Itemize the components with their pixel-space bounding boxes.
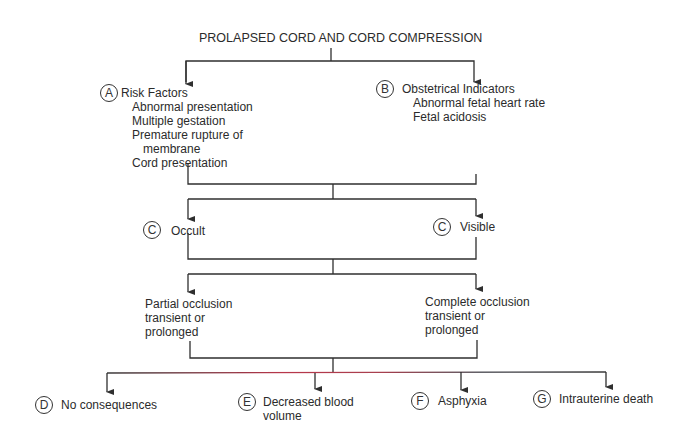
partial-occlusion-node: Partial occlusion transient or prolonged: [145, 297, 232, 339]
intrauterine-death-node: Intrauterine death: [559, 392, 653, 406]
complete-occlusion-node: Complete occlusion transient or prolonge…: [425, 295, 530, 337]
bottom-distribution-line: [107, 372, 606, 373]
risk-factor-item: Multiple gestation: [121, 114, 253, 128]
join-occlusion-line: [190, 340, 477, 358]
badge-e-icon: E: [238, 393, 256, 411]
partial-occlusion-line: Partial occlusion: [145, 297, 232, 311]
complete-occlusion-line: prolonged: [425, 323, 530, 337]
flowchart-connectors: [0, 0, 694, 446]
decreased-blood-volume-node: Decreased blood volume: [263, 395, 354, 423]
no-consequences-node: No consequences: [61, 398, 157, 412]
diagram-title: PROLAPSED CORD AND CORD COMPRESSION: [199, 31, 482, 45]
risk-factors-heading: Risk Factors: [121, 86, 253, 100]
badge-b-icon: B: [376, 80, 394, 98]
badge-a-icon: A: [100, 84, 118, 102]
obstetrical-indicators-heading: Obstetrical Indicators: [402, 82, 545, 96]
risk-factor-item: Cord presentation: [121, 156, 253, 170]
decreased-blood-volume-line: volume: [263, 409, 354, 423]
split-ab-line: [186, 61, 474, 82]
complete-occlusion-line: Complete occlusion: [425, 295, 530, 309]
visible-node: Visible: [460, 220, 495, 234]
occult-node: Occult: [171, 224, 205, 238]
badge-d-icon: D: [35, 396, 53, 414]
indicator-item: Abnormal fetal heart rate: [402, 96, 545, 110]
risk-factor-item: membrane: [121, 142, 253, 156]
partial-occlusion-line: prolonged: [145, 325, 232, 339]
partial-occlusion-line: transient or: [145, 311, 232, 325]
badge-c-icon: C: [143, 221, 161, 239]
obstetrical-indicators-node: Obstetrical Indicators Abnormal fetal he…: [402, 82, 545, 124]
join-c-line: [188, 233, 476, 259]
risk-factors-node: Risk Factors Abnormal presentation Multi…: [121, 86, 253, 170]
decreased-blood-volume-line: Decreased blood: [263, 395, 354, 409]
risk-factor-item: Premature rupture of: [121, 128, 253, 142]
badge-g-icon: G: [533, 390, 551, 408]
badge-f-icon: F: [411, 392, 429, 410]
asphyxia-node: Asphyxia: [438, 394, 487, 408]
complete-occlusion-line: transient or: [425, 309, 530, 323]
risk-factor-item: Abnormal presentation: [121, 100, 253, 114]
badge-c-visible-icon: C: [433, 218, 451, 236]
indicator-item: Fetal acidosis: [402, 110, 545, 124]
